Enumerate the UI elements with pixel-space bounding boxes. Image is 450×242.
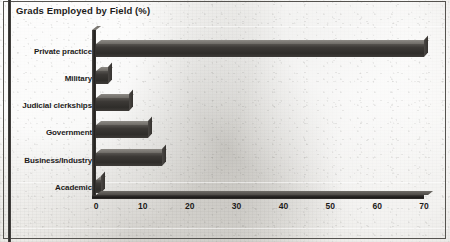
bar-front-face <box>96 98 129 111</box>
bar-front-face <box>96 153 162 166</box>
x-tick-label-0: 0 <box>94 201 99 211</box>
bar-front-face <box>96 125 148 138</box>
x-tick-label-40: 40 <box>279 201 288 211</box>
bar-private-practice <box>96 40 424 53</box>
bar-judicial-clerkships <box>96 94 129 107</box>
bar-front-face <box>96 71 108 84</box>
bar-side-face <box>424 36 428 57</box>
category-label-judicial-clerkships: Judicial clerkships <box>22 101 92 110</box>
x-tick-label-50: 50 <box>326 201 335 211</box>
x-tick-label-10: 10 <box>138 201 147 211</box>
bar-side-face <box>162 145 166 166</box>
category-label-military: Military <box>65 74 92 83</box>
scanned-chart-page: Grads Employed by Field (%) Private prac… <box>0 0 450 242</box>
bar-chart-plot-area: Private practice Military Judicial clerk… <box>0 0 450 242</box>
category-label-private-practice: Private practice <box>34 47 92 56</box>
bar-side-face <box>101 172 105 193</box>
bar-side-face <box>129 90 133 111</box>
category-label-business-industry: Business/Industry <box>24 156 92 165</box>
x-tick-label-60: 60 <box>372 201 381 211</box>
bar-business-industry <box>96 149 162 162</box>
bar-front-face <box>96 44 424 57</box>
x-axis-line <box>92 195 424 199</box>
bar-side-face <box>108 63 112 84</box>
bar-academic <box>96 176 101 189</box>
category-label-government: Government <box>46 128 92 137</box>
bar-government <box>96 121 148 134</box>
category-label-academic: Academic <box>55 183 92 192</box>
bar-military <box>96 67 108 80</box>
bar-side-face <box>148 117 152 138</box>
y-axis-line <box>92 30 96 195</box>
x-tick-label-20: 20 <box>185 201 194 211</box>
x-tick-label-30: 30 <box>232 201 241 211</box>
x-tick-label-70: 70 <box>419 201 428 211</box>
